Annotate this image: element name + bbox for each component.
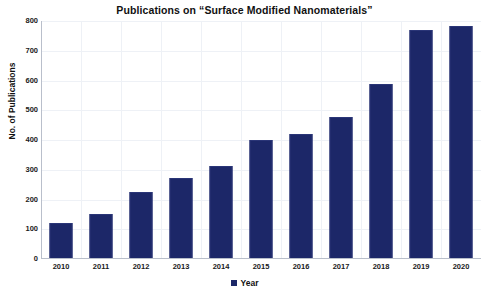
bar-slot: [321, 21, 361, 259]
bar[interactable]: [370, 84, 393, 259]
bar-slot: [281, 21, 321, 259]
x-axis-tick-label: 2014: [213, 262, 230, 271]
bar[interactable]: [170, 178, 193, 259]
y-axis-tick-label: 800: [4, 17, 38, 25]
chart-title: Publications on “Surface Modified Nanoma…: [0, 4, 489, 16]
y-axis-tick-label: 600: [4, 77, 38, 85]
bar-slot: [161, 21, 201, 259]
y-axis-tick-label: 400: [4, 136, 38, 144]
bar[interactable]: [50, 223, 73, 259]
chart-container: Publications on “Surface Modified Nanoma…: [0, 0, 489, 293]
bar-slot: [401, 21, 441, 259]
x-axis-tick-label: 2020: [453, 262, 470, 271]
bar-slot: [81, 21, 121, 259]
bar[interactable]: [410, 30, 433, 259]
x-axis-tick-label: 2017: [333, 262, 350, 271]
bar-slot: [241, 21, 281, 259]
x-axis-tick-label: 2010: [53, 262, 70, 271]
x-axis-line: [41, 258, 481, 259]
x-axis-tick-label: 2013: [173, 262, 190, 271]
chart-legend: Year: [0, 278, 489, 288]
bar-slot: [121, 21, 161, 259]
x-axis-tick-label: 2012: [133, 262, 150, 271]
y-axis-tick-label: 0: [4, 255, 38, 263]
y-axis-tick-label: 300: [4, 166, 38, 174]
y-axis-tick-label: 500: [4, 107, 38, 115]
y-axis-tick-label: 700: [4, 47, 38, 55]
bar[interactable]: [90, 214, 113, 259]
x-axis-tick-label: 2015: [253, 262, 270, 271]
legend-label-year: Year: [241, 278, 259, 288]
bar-slot: [201, 21, 241, 259]
bar-slot: [361, 21, 401, 259]
bar[interactable]: [250, 140, 273, 259]
bar[interactable]: [210, 166, 233, 259]
x-axis-tick-label: 2011: [93, 262, 109, 271]
plot-area: [41, 21, 481, 259]
legend-swatch-icon: [231, 280, 237, 286]
y-axis-tick-label: 100: [4, 226, 38, 234]
bar-slot: [41, 21, 81, 259]
y-axis-line: [41, 21, 42, 259]
bar-series: [41, 21, 481, 259]
y-axis-tick-label: 200: [4, 196, 38, 204]
y-axis-tick-labels: 0100200300400500600700800: [0, 21, 38, 259]
x-axis-tick-labels: 2010201120122013201420152016201720182019…: [41, 262, 481, 276]
bar[interactable]: [330, 117, 353, 259]
bar[interactable]: [450, 26, 473, 259]
bar-slot: [441, 21, 481, 259]
x-axis-tick-label: 2019: [413, 262, 430, 271]
bar[interactable]: [290, 134, 313, 259]
x-axis-tick-label: 2018: [373, 262, 390, 271]
x-axis-tick-label: 2016: [293, 262, 310, 271]
bar[interactable]: [130, 192, 153, 259]
